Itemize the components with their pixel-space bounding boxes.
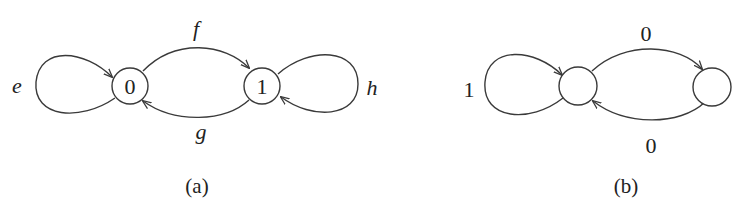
node-1-label: 1	[257, 74, 268, 99]
edge-1-label: 1	[464, 77, 475, 102]
edge-e-loop	[36, 56, 115, 114]
state-node-right	[693, 68, 731, 106]
edge-h-label: h	[367, 75, 378, 100]
edge-1-loop	[485, 54, 563, 114]
node-0-label: 0	[125, 74, 136, 99]
state-diagram-figure: 0 1 e f g h (a) 1 0 0 (b)	[0, 0, 756, 215]
edge-h-loop	[278, 55, 358, 112]
caption-b: (b)	[614, 174, 639, 198]
edge-g	[143, 100, 249, 117]
panel-b: 1 0 0 (b)	[464, 21, 732, 198]
edge-0-bottom	[593, 101, 705, 120]
edge-0-top	[592, 49, 702, 71]
state-node-left	[559, 67, 597, 105]
edge-f	[143, 48, 249, 71]
edge-g-label: g	[196, 119, 207, 144]
edge-f-label: f	[193, 16, 202, 41]
edge-e-label: e	[12, 73, 22, 98]
edge-0-bottom-label: 0	[646, 133, 657, 158]
edge-0-top-label: 0	[641, 21, 652, 46]
panel-a: 0 1 e f g h (a)	[12, 16, 377, 198]
caption-a: (a)	[185, 174, 208, 198]
